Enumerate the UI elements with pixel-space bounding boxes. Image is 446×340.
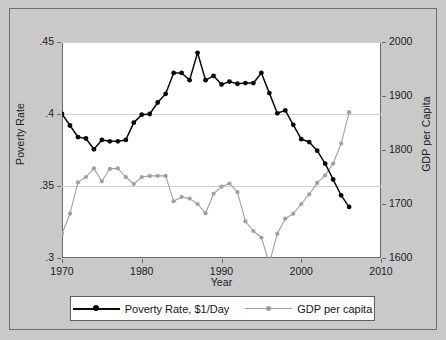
- x-tick-mark: [301, 259, 302, 263]
- x-tick-mark: [62, 259, 63, 263]
- y-right-tick-label: 1700: [389, 197, 429, 209]
- y-left-tick-label: .45: [20, 35, 54, 47]
- data-point: [99, 138, 104, 143]
- legend-line-marker-icon: [73, 304, 120, 314]
- data-point: [187, 78, 192, 83]
- chart-legend: Poverty Rate, $1/Day GDP per capita: [70, 296, 375, 321]
- data-point: [155, 100, 160, 105]
- chart-figure: Poverty Rate GDP per Capita Year Poverty…: [0, 0, 446, 340]
- data-point: [307, 140, 312, 145]
- data-point: [259, 235, 263, 239]
- series-line-gdp-per-capita: [62, 112, 349, 258]
- x-tick-label: 2010: [361, 265, 401, 277]
- y-right-tick-label: 1800: [389, 143, 429, 155]
- legend-label-poverty-rate: Poverty Rate, $1/Day: [125, 303, 230, 315]
- data-point: [291, 122, 296, 127]
- legend-label-gdp-per-capita: GDP per capita: [297, 303, 372, 315]
- legend-item-poverty-rate: Poverty Rate, $1/Day: [73, 303, 230, 315]
- y-left-tick-label: .3: [20, 251, 54, 263]
- y-right-tick-mark: [382, 258, 386, 259]
- data-point: [131, 120, 136, 125]
- data-point: [259, 71, 264, 76]
- y-right-tick-label: 1600: [389, 251, 429, 263]
- data-point: [203, 78, 208, 83]
- data-point: [124, 175, 128, 179]
- data-point: [299, 202, 303, 206]
- data-point: [68, 123, 73, 128]
- y-right-tick-mark: [382, 42, 386, 43]
- data-point: [243, 219, 247, 223]
- y-axis-left-title: Poverty Rate: [14, 89, 26, 179]
- data-point: [147, 112, 152, 117]
- y-axis-right-title: GDP per Capita: [420, 89, 432, 179]
- x-axis-title: Year: [62, 276, 381, 288]
- data-point: [235, 190, 239, 194]
- data-point: [227, 181, 231, 185]
- y-left-tick-mark: [57, 42, 61, 43]
- series-layer: [62, 50, 351, 258]
- data-point: [108, 167, 112, 171]
- data-point: [339, 193, 344, 198]
- data-point: [84, 175, 88, 179]
- data-point: [179, 71, 184, 76]
- data-point: [92, 147, 97, 152]
- data-point: [339, 141, 343, 145]
- data-point: [171, 71, 176, 76]
- data-point: [299, 137, 304, 142]
- data-point: [235, 81, 240, 86]
- data-point: [76, 135, 81, 140]
- data-point: [283, 108, 288, 113]
- y-right-tick-label: 2000: [389, 35, 429, 47]
- data-point: [62, 232, 64, 236]
- data-point: [331, 161, 335, 165]
- x-tick-mark: [381, 259, 382, 263]
- data-point: [283, 216, 287, 220]
- data-point: [132, 182, 136, 186]
- data-point: [243, 81, 248, 86]
- data-point: [331, 177, 336, 182]
- data-point: [116, 166, 120, 170]
- y-left-tick-label: .4: [20, 107, 54, 119]
- data-point: [156, 174, 160, 178]
- y-left-tick-mark: [57, 186, 61, 187]
- data-point: [100, 179, 104, 183]
- data-point: [275, 111, 280, 116]
- x-tick-mark: [222, 259, 223, 263]
- data-point: [180, 195, 184, 199]
- data-point: [315, 181, 319, 185]
- data-point: [347, 204, 352, 209]
- x-tick-label: 2000: [281, 265, 321, 277]
- data-point: [148, 174, 152, 178]
- data-point: [68, 212, 72, 216]
- series-line-poverty-rate: [62, 53, 349, 207]
- data-point: [211, 192, 215, 196]
- data-point: [139, 112, 144, 117]
- data-point: [163, 91, 168, 96]
- data-point: [188, 197, 192, 201]
- data-point: [203, 211, 207, 215]
- y-right-tick-label: 1900: [389, 89, 429, 101]
- data-point: [115, 139, 120, 144]
- x-tick-label: 1980: [122, 265, 162, 277]
- y-left-tick-mark: [57, 258, 61, 259]
- data-point: [267, 91, 272, 96]
- data-point: [307, 192, 311, 196]
- plot-svg: [62, 42, 381, 258]
- data-point: [123, 138, 128, 143]
- y-right-tick-mark: [382, 96, 386, 97]
- y-left-tick-mark: [57, 114, 61, 115]
- data-point: [315, 148, 320, 153]
- data-point: [140, 175, 144, 179]
- data-point: [323, 173, 327, 177]
- gridlines: [62, 42, 381, 258]
- data-point: [164, 174, 168, 178]
- y-right-tick-mark: [382, 204, 386, 205]
- data-point: [347, 110, 351, 114]
- y-right-tick-mark: [382, 150, 386, 151]
- legend-line-marker-icon: [245, 304, 292, 314]
- data-point: [195, 50, 200, 55]
- data-point: [251, 81, 256, 86]
- data-point: [275, 232, 279, 236]
- y-left-tick-label: .35: [20, 179, 54, 191]
- data-point: [227, 79, 232, 84]
